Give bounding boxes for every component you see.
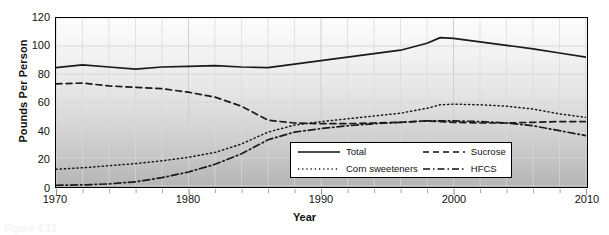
legend-entry-sucrose: Sucrose <box>418 146 509 157</box>
x-tick-label: 1970 <box>25 193 85 205</box>
legend-entry-total: Total <box>293 146 418 157</box>
figure-caption-fragment: Figure 4.12 <box>4 223 57 235</box>
y-tick-label: 40 <box>16 126 50 137</box>
hfcs-line-sample <box>422 164 466 174</box>
legend-label: Sucrose <box>471 146 506 157</box>
legend-entry-hfcs: HFCS <box>418 163 509 174</box>
y-tick-label: 80 <box>16 69 50 80</box>
y-tick-label: 100 <box>16 40 50 51</box>
legend-entry-corn-sweeteners: Corn sweeteners <box>293 163 418 174</box>
chart-legend: Total Sucrose Corn sweeteners HFCS <box>290 142 512 178</box>
corn-sweeteners-line-sample <box>297 164 341 174</box>
y-tick-label: 60 <box>16 97 50 108</box>
sucrose-line-sample <box>422 147 466 157</box>
x-tick-label: 2000 <box>424 193 484 205</box>
y-tick-label: 20 <box>16 154 50 165</box>
x-tick-label: 1990 <box>291 193 351 205</box>
x-axis-title: Year <box>0 211 609 223</box>
legend-label: Total <box>346 146 366 157</box>
x-tick-label: 2010 <box>557 193 609 205</box>
y-tick-label: 120 <box>16 12 50 23</box>
legend-label: Corn sweeteners <box>346 163 418 174</box>
total-line-sample <box>297 147 341 157</box>
legend-label: HFCS <box>471 163 497 174</box>
sweetener-consumption-chart-figure: Pounds Per Person 120 100 80 60 40 20 0 … <box>0 0 609 235</box>
x-tick-label: 1980 <box>158 193 218 205</box>
